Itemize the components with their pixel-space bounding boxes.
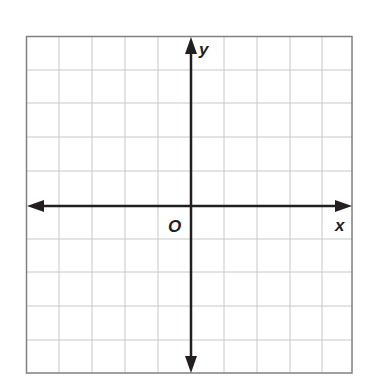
y-axis-up-arrow-icon bbox=[185, 37, 197, 54]
y-axis-down-arrow-icon bbox=[185, 356, 197, 373]
origin-label: O bbox=[168, 218, 181, 235]
x-axis-label: x bbox=[335, 217, 344, 234]
x-axis bbox=[27, 200, 352, 212]
y-axis-label: y bbox=[199, 41, 208, 58]
grid-lines bbox=[26, 36, 352, 373]
x-axis-left-arrow-icon bbox=[27, 200, 44, 212]
x-axis-right-arrow-icon bbox=[335, 200, 352, 212]
coordinate-plane bbox=[0, 0, 370, 381]
